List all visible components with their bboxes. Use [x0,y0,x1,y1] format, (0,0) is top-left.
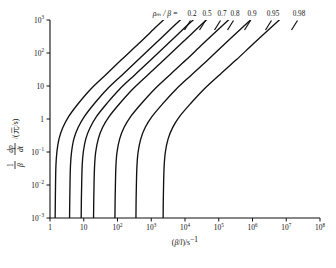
series-curve-0p98 [163,16,283,218]
x-tick-label: 1 [48,223,52,232]
legend-label-0p98: 0.98 [293,10,306,18]
log-log-plot: 11010210310410510610710810310210110−110−… [0,0,336,268]
y-tick-label: 10−1 [31,146,44,156]
y-tick-label: 102 [34,47,44,57]
svg-text:β: β [16,163,25,168]
x-tick-label: 102 [113,222,123,232]
legend-label-0p8: 0.8 [231,10,240,18]
x-axis-title: (β/l)/s−1 [172,235,198,247]
series-curve-0p2 [55,16,167,218]
x-tick-label: 10 [80,223,88,232]
y-axis-title: 1βdpdt/(元/s) [6,118,25,169]
y-tick-label: 10−3 [31,212,44,222]
x-tick-label: 105 [214,222,224,232]
legend-label-0p7: 0.7 [218,10,227,18]
series-curve-0p5 [70,16,185,218]
legend-leader-0p2 [185,21,191,31]
svg-text:dt: dt [16,145,25,152]
x-tick-label: 107 [281,222,291,232]
legend-prefix: ρₘ / β = [152,9,178,18]
svg-text:/(元/s): /(元/s) [11,118,20,139]
y-tick-label: 10 [37,82,45,91]
svg-text:1: 1 [6,163,15,167]
series-curve-0p9 [115,16,233,218]
legend-label-0p5: 0.5 [203,10,212,18]
y-tick-label: 10−2 [31,179,44,189]
legend-label-0p2: 0.2 [188,10,197,18]
curve-group [55,16,283,218]
legend-label-0p9: 0.9 [248,10,257,18]
series-curve-0p95 [136,16,255,218]
x-tick-label: 103 [146,222,156,232]
y-tick-label: 103 [34,14,44,24]
legend-label-0p95: 0.95 [267,10,280,18]
x-tick-label: 106 [248,222,258,232]
legend-leader-0p8 [228,21,234,31]
legend-leader-0p98 [292,21,298,31]
chart-figure: 11010210310410510610710810310210110−110−… [0,0,336,268]
axis-spines [50,20,320,218]
svg-text:dp: dp [6,145,15,153]
x-tick-label: 108 [315,222,325,232]
y-tick-label: 1 [40,115,44,124]
x-tick-label: 104 [180,222,190,232]
